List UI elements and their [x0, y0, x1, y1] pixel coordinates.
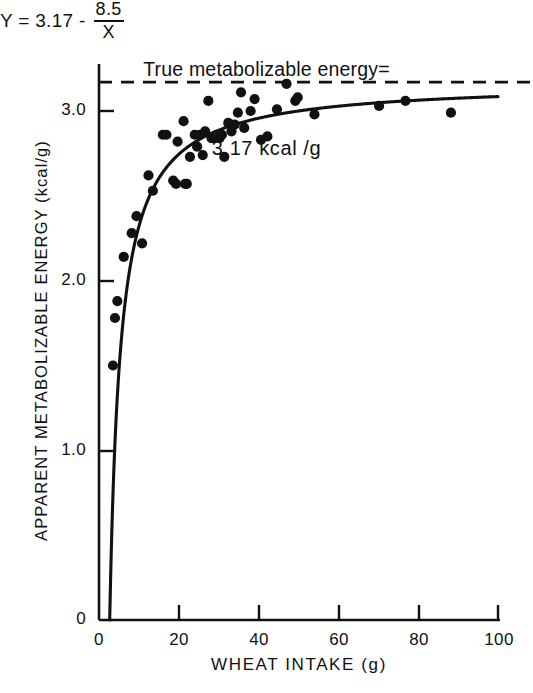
data-point	[203, 96, 213, 106]
scatter-points	[108, 79, 456, 371]
data-point	[110, 313, 120, 323]
data-point	[198, 150, 208, 160]
data-point	[246, 106, 256, 116]
data-point	[108, 360, 118, 370]
y-axis-ticks	[99, 111, 114, 451]
fitted-curve	[110, 97, 498, 620]
data-point	[272, 104, 282, 114]
figure-container: True metabolizable energy= 3.17 kcal /g …	[0, 0, 533, 693]
data-point	[236, 87, 246, 97]
data-point	[281, 79, 291, 89]
data-point	[127, 228, 137, 238]
data-point	[309, 109, 319, 119]
plot-area	[0, 0, 533, 693]
x-axis-ticks	[179, 605, 498, 620]
data-point	[293, 92, 303, 102]
data-point	[131, 211, 141, 221]
data-point	[173, 136, 183, 146]
data-point	[192, 142, 202, 152]
data-point	[446, 108, 456, 118]
data-point	[219, 152, 229, 162]
data-point	[239, 123, 249, 133]
data-point	[178, 116, 188, 126]
data-point	[137, 238, 147, 248]
data-point	[230, 119, 240, 129]
data-point	[161, 130, 171, 140]
data-point	[143, 170, 153, 180]
data-point	[250, 94, 260, 104]
data-point	[217, 130, 227, 140]
data-point	[185, 152, 195, 162]
data-point	[262, 131, 272, 141]
data-point	[374, 101, 384, 111]
data-point	[148, 186, 158, 196]
data-point	[182, 179, 192, 189]
data-point	[119, 252, 129, 262]
data-point	[112, 296, 122, 306]
data-point	[171, 179, 181, 189]
data-point	[400, 96, 410, 106]
data-point	[233, 108, 243, 118]
